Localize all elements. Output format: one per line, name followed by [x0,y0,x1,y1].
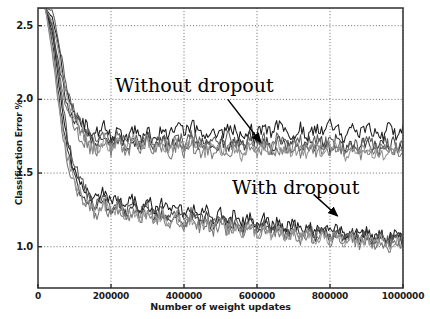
x-tick-label: 600000 [222,291,292,301]
x-tick-label: 400000 [149,291,219,301]
y-tick-label: 1.0 [3,241,33,252]
chart-figure: Classification Error % Number of weight … [0,0,430,319]
y-axis-label: Classification Error % [14,88,24,218]
y-tick-label: 2.5 [3,20,33,31]
plot-canvas [0,0,430,319]
x-axis-label: Number of weight updates [38,301,403,312]
y-tick-label: 1.5 [3,167,33,178]
x-tick-label: 1000000 [368,291,430,301]
x-tick-label: 200000 [76,291,146,301]
x-tick-label: 800000 [295,291,365,301]
annotation-without-dropout: Without dropout [115,74,274,96]
y-tick-label: 2.0 [3,93,33,104]
x-tick-label: 0 [3,291,73,301]
annotation-with-dropout: With dropout [232,176,359,198]
